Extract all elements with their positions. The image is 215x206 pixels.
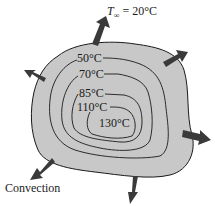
isotherm-label-70: 70°C [79,68,104,80]
arrow-bottom-left-icon [30,158,55,180]
diagram-graphics [0,0,215,206]
arrow-top-icon [92,16,110,46]
isotherm-label-85: 85°C [79,87,104,99]
arrow-bottom-icon [128,176,138,204]
isotherm-label-50: 50°C [77,52,102,64]
ambient-temperature-label: T∞ = 20°C [107,5,157,20]
isotherm-label-110: 110°C [77,101,107,113]
isotherm-label-130: 130°C [99,117,130,129]
convection-label: Convection [5,182,60,194]
heat-conduction-diagram: T∞ = 20°C 50°C 70°C 85°C 110°C 130°C Con… [0,0,215,206]
